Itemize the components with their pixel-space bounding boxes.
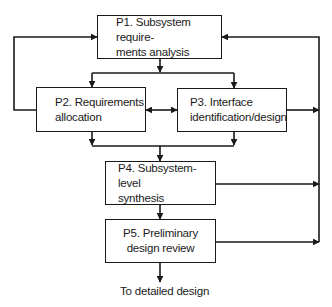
node-p1-label: P1. Subsystem require- ments analysis bbox=[116, 15, 221, 60]
node-p1-subsystem-requirements-analysis: P1. Subsystem require- ments analysis bbox=[97, 15, 222, 59]
output-label: To detailed design bbox=[120, 285, 209, 297]
node-p3-interface-identification-design: P3. Interface identification/design bbox=[177, 88, 287, 132]
node-p2-requirements-allocation: P2. Requirements allocation bbox=[36, 87, 146, 132]
node-p3-label: P3. Interface identification/design bbox=[190, 95, 287, 125]
node-p2-label: P2. Requirements allocation bbox=[55, 95, 144, 125]
feedback-bus-p1 bbox=[222, 37, 319, 242]
node-p5-preliminary-design-review: P5. Preliminary design review bbox=[105, 219, 216, 263]
node-p4-subsystem-level-synthesis: P4. Subsystem-level synthesis bbox=[105, 161, 216, 205]
node-p4-label: P4. Subsystem-level synthesis bbox=[118, 161, 215, 206]
node-p5-label: P5. Preliminary design review bbox=[123, 226, 198, 256]
